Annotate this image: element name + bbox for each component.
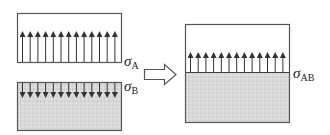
panel-b — [18, 83, 122, 131]
sigma-b-label: σB — [124, 79, 138, 96]
interface-stress-diagram — [0, 0, 330, 135]
panel-a-box — [18, 14, 122, 63]
panel-ab-material-region — [186, 73, 290, 123]
sigma-a-subscript: A — [131, 60, 138, 71]
sigma-ab-subscript: AB — [300, 72, 314, 83]
panel-a — [18, 14, 122, 63]
sigma-a-label: σA — [124, 54, 139, 71]
hollow-right-arrow-icon — [145, 65, 177, 85]
sigma-b-subscript: B — [131, 85, 138, 96]
panel-ab — [186, 25, 290, 123]
panel-b-box — [18, 83, 122, 131]
sigma-ab-label: σAB — [293, 66, 314, 83]
